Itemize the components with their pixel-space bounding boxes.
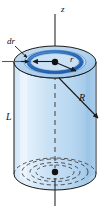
body-shadow-band — [86, 62, 96, 178]
shell-radius-label: r — [70, 55, 74, 64]
z-axis-label: z — [61, 5, 65, 14]
bottom-center-dot — [52, 169, 58, 175]
figure-canvas — [0, 0, 111, 209]
cylinder-length-label: L — [6, 112, 12, 122]
top-center-dot — [52, 59, 58, 65]
cylinder-radius-label: R — [79, 93, 85, 103]
dr-thickness-label: dr — [7, 37, 15, 46]
cylinder-shell-figure: z dr r R L — [0, 0, 111, 209]
